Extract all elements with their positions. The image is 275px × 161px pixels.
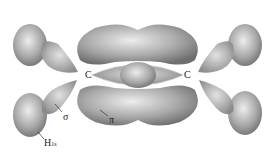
pi-lobe-bottom bbox=[77, 85, 198, 125]
label-pi: π bbox=[109, 115, 114, 125]
label-carbon-right: C bbox=[184, 70, 191, 80]
sigma-lobe-bottom-right bbox=[199, 80, 234, 114]
label-hydrogen-sub: 1s bbox=[51, 141, 56, 147]
pi-lobe-top bbox=[77, 24, 198, 64]
hydrogen-orbital-top-left bbox=[13, 24, 47, 66]
label-sigma: σ bbox=[63, 112, 68, 122]
hydrogen-orbital-top-right bbox=[228, 24, 262, 66]
sigma-lobe-top-left bbox=[41, 41, 78, 73]
hydrogen-orbital-bottom-right bbox=[228, 91, 262, 135]
hydrogen-orbital-bottom-left bbox=[13, 93, 47, 137]
label-hydrogen: H1s bbox=[44, 138, 57, 148]
label-carbon-left: C bbox=[85, 70, 92, 80]
sigma-lobe-top-right bbox=[198, 41, 234, 73]
orbital-diagram bbox=[0, 0, 275, 161]
sigma-cc-core bbox=[120, 62, 156, 88]
